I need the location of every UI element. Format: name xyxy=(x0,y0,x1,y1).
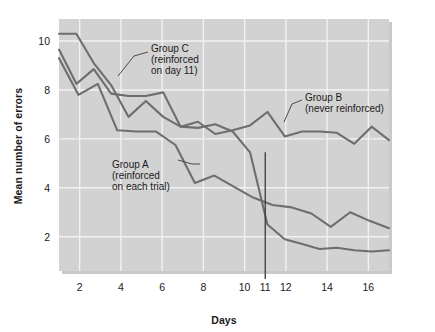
x-tick-label: 2 xyxy=(77,281,83,293)
x-tick-labels: 24681011121416 xyxy=(77,281,375,293)
group-b-label-line2: (never reinforced) xyxy=(305,103,384,114)
group-a-label-line3: on each trial) xyxy=(112,181,170,192)
x-tick-label: 4 xyxy=(118,281,124,293)
plot-area-background xyxy=(59,19,389,271)
x-tick-label: 6 xyxy=(159,281,165,293)
y-tick-label: 4 xyxy=(44,182,50,194)
y-tick-label: 6 xyxy=(44,133,50,145)
x-tick-label: 12 xyxy=(280,281,292,293)
x-tick-label: 11 xyxy=(260,281,271,293)
y-tick-label: 8 xyxy=(44,84,50,96)
y-tick-label: 10 xyxy=(38,35,50,47)
x-axis-title: Days xyxy=(211,314,237,326)
chart-figure: 246810 24681011121416 Mean number of err… xyxy=(0,0,435,332)
y-tick-label: 2 xyxy=(44,231,50,243)
y-tick-labels: 246810 xyxy=(38,35,50,243)
x-tick-label: 8 xyxy=(200,281,206,293)
x-tick-label: 14 xyxy=(321,281,333,293)
group-c-label-line2: (reinforced xyxy=(151,54,199,65)
y-axis-title: Mean number of errors xyxy=(12,88,24,205)
group-c-label-line1: Group C xyxy=(151,43,189,54)
group-a-label-line2: (reinforced xyxy=(112,170,160,181)
group-c-label-line3: on day 11) xyxy=(151,65,198,76)
group-b-label-line1: Group B xyxy=(305,92,343,103)
group-a-label-line1: Group A xyxy=(112,159,149,170)
x-tick-label: 10 xyxy=(239,281,251,293)
x-tick-label: 16 xyxy=(363,281,375,293)
line-chart: 246810 24681011121416 Mean number of err… xyxy=(0,0,435,332)
